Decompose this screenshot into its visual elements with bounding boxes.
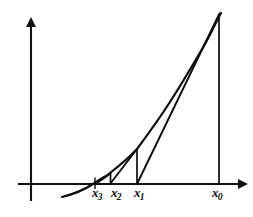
y-axis-arrow-icon	[26, 17, 36, 27]
axis-label-x3-subscript: 3	[98, 192, 103, 202]
axis-label-x2-subscript: 2	[117, 192, 122, 202]
function-curve-path	[62, 13, 221, 197]
tangent-line-at-x1	[110, 149, 137, 184]
newton-method-figure: x3 x2 x1 x0	[0, 0, 253, 217]
axis-label-x0-subscript: 0	[218, 192, 223, 202]
axis-label-x1: x1	[134, 186, 145, 200]
tangent-line-at-x0	[137, 14, 220, 185]
tangent-line-at-x2	[95, 174, 111, 185]
axis-label-x0: x0	[212, 186, 223, 200]
axis-label-x2: x2	[111, 186, 122, 200]
axis-label-x1-subscript: 1	[140, 192, 145, 202]
x-axis-arrow-icon	[238, 179, 248, 189]
axis-label-x3: x3	[92, 186, 103, 200]
